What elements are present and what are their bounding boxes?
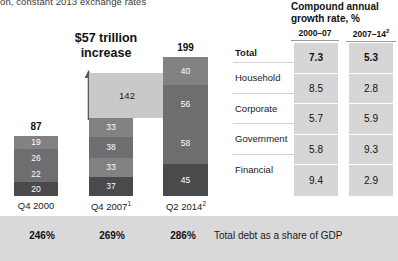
bar-total-q4-2000: 87 bbox=[14, 121, 58, 132]
bar-segment-corporate-q4-2007: 38 bbox=[89, 137, 133, 158]
bar-axis-footnote-q2-2014: 2 bbox=[202, 200, 206, 207]
growth-cell-corporate-2007-14: 5.9 bbox=[349, 104, 393, 135]
increase-callout-line1: $57 trillion bbox=[44, 31, 168, 46]
gdp-share-footer: 246% 269% 286% Total debt as a share of … bbox=[0, 216, 398, 261]
bar-segment-financial-q4-2007: 37 bbox=[89, 177, 133, 196]
bar-segment-household-q2-2014: 40 bbox=[163, 57, 208, 85]
bar-axis-label-q4-2007: Q4 20071 bbox=[79, 200, 143, 212]
increase-block-value: 142 bbox=[119, 90, 135, 101]
increase-callout-line2: increase bbox=[44, 46, 168, 61]
growth-table-col2-header: 2007–142 bbox=[346, 28, 396, 42]
bar-segment-corporate-q2-2014: 56 bbox=[163, 85, 208, 123]
bar-total-q2-2014: 199 bbox=[163, 42, 208, 53]
bar-segment-household-q4-2007: 33 bbox=[89, 118, 133, 137]
bar-group-q2-2014: 199 40 56 58 45 bbox=[163, 57, 208, 196]
bar-group-q4-2000: 87 19 26 22 20 bbox=[14, 136, 58, 196]
bar-segment-government-q4-2007: 33 bbox=[89, 158, 133, 177]
growth-table-header-line1: Compound annual bbox=[291, 1, 397, 13]
category-row-financial: Financial bbox=[233, 154, 297, 185]
bar-segment-government-q4-2000: 22 bbox=[14, 167, 58, 182]
category-row-household: Household bbox=[233, 62, 297, 93]
bar-axis-label-q4-2000: Q4 2000 bbox=[4, 200, 68, 211]
growth-cell-government-2000-07: 5.8 bbox=[294, 135, 338, 166]
growth-cell-financial-2007-14: 2.9 bbox=[349, 165, 393, 196]
growth-table-col2-header-text: 2007–14 bbox=[353, 29, 386, 39]
bar-segment-household-q4-2000: 19 bbox=[14, 136, 58, 149]
growth-table-column-2007-14: 5.3 2.8 5.9 9.3 2.9 bbox=[349, 43, 393, 196]
bar-axis-footnote-q4-2007: 1 bbox=[127, 200, 131, 207]
bar-segment-corporate-q4-2000: 26 bbox=[14, 149, 58, 167]
bar-axis-label-text-q2-2014: Q2 2014 bbox=[166, 201, 202, 212]
growth-cell-corporate-2000-07: 5.7 bbox=[294, 104, 338, 135]
bar-group-q4-2007: 33 38 33 37 bbox=[89, 118, 133, 196]
chart-figure: on, constant 2013 exchange rates $57 tri… bbox=[0, 0, 398, 261]
growth-table-col2-footnote: 2 bbox=[386, 28, 389, 34]
gdp-share-q4-2000: 246% bbox=[14, 230, 70, 241]
growth-cell-household-2007-14: 2.8 bbox=[349, 74, 393, 105]
growth-table-col1-header-text: 2000–07 bbox=[298, 28, 331, 38]
growth-cell-total-2000-07: 7.3 bbox=[294, 43, 338, 74]
growth-cell-government-2007-14: 9.3 bbox=[349, 135, 393, 166]
bar-segment-government-q2-2014: 58 bbox=[163, 123, 208, 164]
bar-segment-financial-q2-2014: 45 bbox=[163, 164, 208, 196]
growth-table-header: Compound annual growth rate, % bbox=[291, 1, 397, 24]
bar-axis-label-text-q4-2000: Q4 2000 bbox=[18, 200, 54, 211]
bar-axis-label-q2-2014: Q2 20142 bbox=[153, 200, 219, 212]
bar-segment-financial-q4-2000: 20 bbox=[14, 182, 58, 196]
gdp-share-note: Total debt as a share of GDP bbox=[214, 230, 342, 241]
category-row-corporate: Corporate bbox=[233, 93, 297, 124]
growth-table-column-2000-07: 7.3 8.5 5.7 5.8 9.4 bbox=[294, 43, 338, 196]
figure-subtitle: on, constant 2013 exchange rates bbox=[0, 0, 146, 7]
growth-table-header-line2: growth rate, % bbox=[291, 13, 397, 25]
bar-axis-label-text-q4-2007: Q4 2007 bbox=[91, 201, 127, 212]
gdp-share-q2-2014: 286% bbox=[155, 230, 211, 241]
growth-cell-household-2000-07: 8.5 bbox=[294, 74, 338, 105]
increase-block-142: 142 bbox=[89, 73, 165, 118]
increase-callout: $57 trillion increase bbox=[44, 31, 168, 60]
growth-cell-total-2007-14: 5.3 bbox=[349, 43, 393, 74]
category-row-government: Government bbox=[233, 123, 297, 154]
gdp-share-q4-2007: 269% bbox=[84, 230, 140, 241]
category-row-total: Total bbox=[233, 43, 297, 62]
growth-cell-financial-2000-07: 9.4 bbox=[294, 165, 338, 196]
category-label-column: Total Household Corporate Government Fin… bbox=[233, 43, 297, 184]
growth-table-col1-header: 2000–07 bbox=[291, 28, 339, 41]
